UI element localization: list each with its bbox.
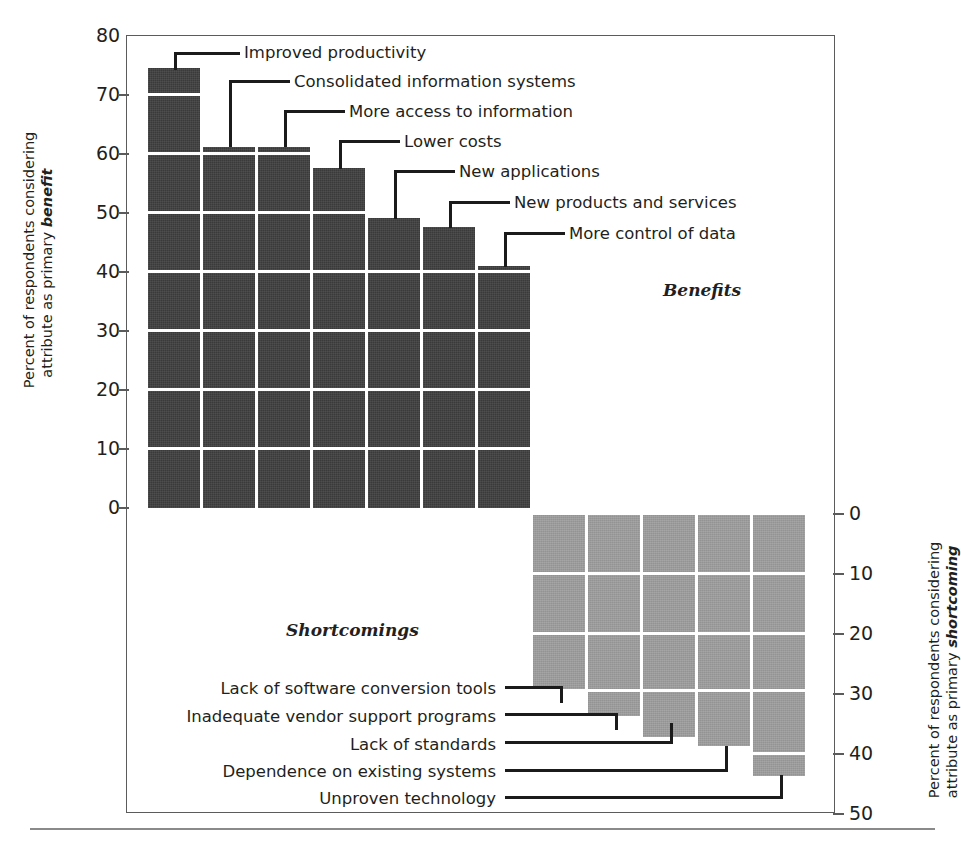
right-axis-title: Percent of respondents considering attri…: [925, 548, 961, 798]
right-tick-label-10: 10: [849, 562, 873, 584]
right-tick-label-50: 50: [849, 802, 873, 824]
shortcoming-bar-inadequate-vendor-support-programs: [588, 515, 640, 716]
right-tick-20: [833, 633, 844, 635]
callout-consolidated-information-systems: Consolidated information systems: [294, 72, 576, 91]
left-tick-70: [118, 94, 129, 96]
callout-lack-of-software-conversion-tools: Lack of software conversion tools: [186, 679, 496, 698]
left-tick-40: [118, 271, 129, 273]
benefit-bar-new-products-and-services: [423, 227, 475, 508]
left-tick-label-60: 60: [96, 142, 120, 164]
right-tick-label-40: 40: [849, 742, 873, 764]
left-axis-title-emphasis: benefit: [39, 169, 55, 228]
left-tick-30: [118, 330, 129, 332]
left-tick-label-10: 10: [96, 437, 120, 459]
left-tick-label-30: 30: [96, 319, 120, 341]
right-tick-30: [833, 693, 844, 695]
callout-new-products-and-services: New products and services: [514, 193, 737, 212]
benefit-bar-lower-costs: [313, 168, 365, 508]
right-axis-title-line2-prefix: attribute as primary: [944, 648, 960, 798]
right-tick-40: [833, 753, 844, 755]
left-tick-label-80: 80: [96, 24, 120, 46]
shortcoming-bar-lack-of-software-conversion-tools: [533, 515, 585, 689]
callout-more-access-to-information: More access to information: [349, 102, 573, 121]
region-label-shortcomings: Shortcomings: [286, 620, 419, 640]
benefit-bar-more-access-to-information: [258, 147, 310, 508]
left-tick-20: [118, 389, 129, 391]
benefit-bar-more-control-of-data: [478, 266, 530, 508]
benefit-bar-new-applications: [368, 218, 420, 508]
benefit-bar-improved-productivity: [148, 68, 200, 508]
callout-lack-of-standards: Lack of standards: [186, 735, 496, 754]
right-tick-label-0: 0: [849, 502, 861, 524]
right-axis-title-emphasis: shortcoming: [944, 546, 960, 648]
shortcoming-bar-lack-of-standards: [643, 515, 695, 737]
region-label-benefits: Benefits: [663, 280, 741, 300]
benefit-bar-consolidated-information-systems: [203, 147, 255, 508]
right-tick-0: [833, 513, 844, 515]
left-tick-label-70: 70: [96, 83, 120, 105]
caption-divider-rule: [30, 828, 935, 830]
right-tick-label-20: 20: [849, 622, 873, 644]
left-axis-title-line1: Percent of respondents considering: [21, 132, 37, 388]
callout-inadequate-vendor-support-programs: Inadequate vendor support programs: [186, 707, 496, 726]
callout-lower-costs: Lower costs: [404, 132, 502, 151]
right-tick-label-30: 30: [849, 682, 873, 704]
left-tick-label-40: 40: [96, 260, 120, 282]
left-tick-label-50: 50: [96, 201, 120, 223]
right-axis-title-line1: Percent of respondents considering: [926, 542, 942, 798]
callout-more-control-of-data: More control of data: [569, 224, 736, 243]
left-tick-60: [118, 153, 129, 155]
callout-unproven-technology: Unproven technology: [186, 789, 496, 808]
left-tick-10: [118, 448, 129, 450]
callout-improved-productivity: Improved productivity: [244, 43, 426, 62]
left-axis-title-line2-prefix: attribute as primary: [39, 227, 55, 377]
left-tick-label-20: 20: [96, 378, 120, 400]
left-tick-0: [118, 507, 129, 509]
callout-dependence-on-existing-systems: Dependence on existing systems: [186, 762, 496, 781]
shortcoming-bar-unproven-technology: [753, 515, 805, 776]
shortcoming-bar-dependence-on-existing-systems: [698, 515, 750, 746]
right-tick-50: [833, 813, 844, 815]
left-tick-50: [118, 212, 129, 214]
right-tick-10: [833, 573, 844, 575]
left-axis-title: Percent of respondents considering attri…: [20, 158, 56, 388]
callout-new-applications: New applications: [459, 162, 600, 181]
